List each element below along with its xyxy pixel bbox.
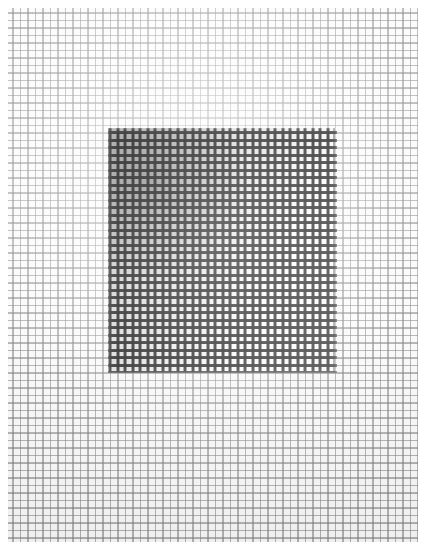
image-canvas <box>0 0 432 557</box>
dark-rectangular-patch <box>108 128 337 373</box>
patch-horizontal-threads <box>108 128 337 373</box>
